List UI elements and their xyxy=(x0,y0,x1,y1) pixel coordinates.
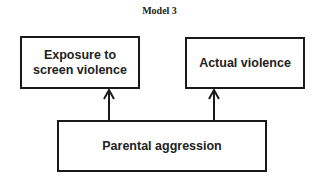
edge-arrows xyxy=(0,0,319,184)
arrow-parental-to-actual xyxy=(209,90,219,120)
arrow-parental-to-exposure xyxy=(104,90,114,120)
